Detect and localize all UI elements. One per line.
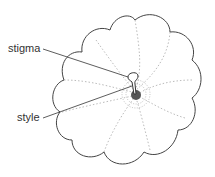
style-label: style (17, 112, 40, 123)
petal-lines (62, 20, 192, 152)
stigma-label: stigma (8, 43, 40, 54)
style-leader (43, 86, 132, 118)
flower-diagram (0, 0, 215, 177)
stigma-leader (43, 49, 128, 77)
